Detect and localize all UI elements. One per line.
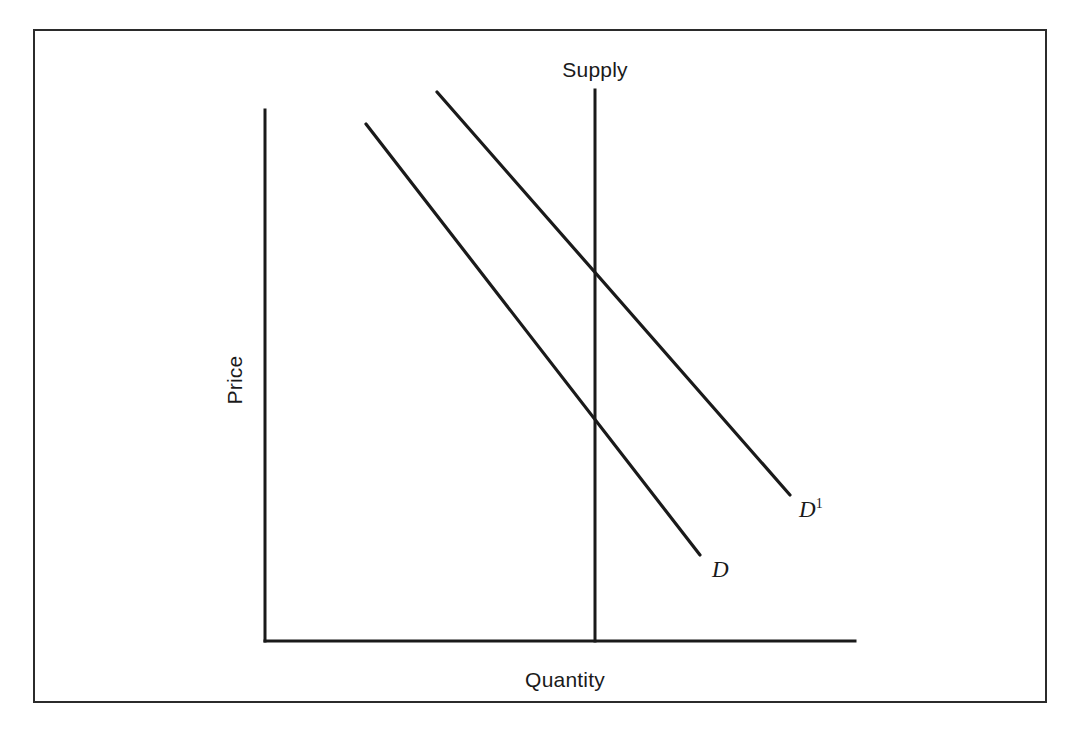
y-axis-label: Price [223,356,247,405]
demand-curve-line [366,124,700,555]
demand-curve-label-text: D [712,557,729,582]
demand-shifted-label-superscript: 1 [816,496,823,511]
demand-curve-label: D [712,557,729,583]
supply-curve-label: Supply [562,58,627,82]
demand-shifted-curve-label: D1 [799,497,823,523]
figure-container: Supply Price Quantity D D1 [0,0,1076,730]
plot-canvas [0,0,1076,730]
x-axis-label: Quantity [525,668,605,692]
demand-shifted-label-text: D [799,497,816,522]
demand-shifted-curve-line [437,92,790,495]
